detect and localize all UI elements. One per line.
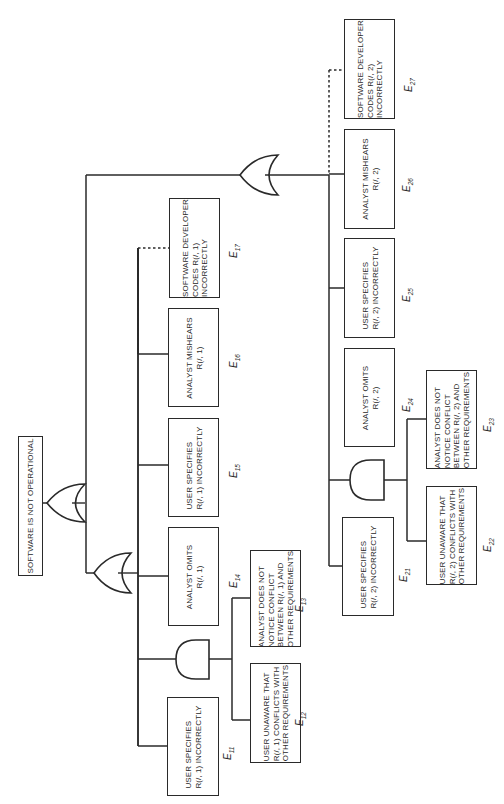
event-text-e13: ANALYST DOES NOT NOTICE CONFLICT BETWEEN… xyxy=(257,550,295,646)
event-text-e25: USER SPECIFIES R(/, 2) INCORRECTLY xyxy=(360,246,379,329)
event-text-e17: SOFTWARE DEVELOPER CODES R(/, 1) INCORRE… xyxy=(180,199,209,297)
top-event-box: SOFTWARE IS NOT OPERATIONAL xyxy=(18,436,43,576)
event-label-e17: E17 xyxy=(228,244,241,258)
event-text-e15: USER SPECIFIES R(/, 1) INCORRECTLY xyxy=(184,426,203,509)
event-box-e11: USER SPECIFIES R(/, 1) INCORRECTLY xyxy=(167,697,219,796)
event-box-e25: USER SPECIFIES R(/, 2) INCORRECTLY xyxy=(344,238,395,338)
event-box-e16: ANALYST MISHEARS R(/, 1) xyxy=(168,308,219,407)
event-box-e17: SOFTWARE DEVELOPER CODES R(/, 1) INCORRE… xyxy=(169,198,220,298)
event-text-e23: ANALYST DOES NOT NOTICE CONFLICT BETWEEN… xyxy=(433,371,471,467)
and-gate-branch-2 xyxy=(350,460,384,500)
event-label-e25: E25 xyxy=(401,288,414,302)
event-box-e27: SOFTWARE DEVELOPER CODES R(/, 2) INCORRE… xyxy=(344,19,395,119)
event-label-e13: E13 xyxy=(294,598,307,612)
event-text-e22: USER UNAWARE THAT R(/, 2) CONFLICTS WITH… xyxy=(437,487,466,583)
event-box-e15: USER SPECIFIES R(/, 1) INCORRECTLY xyxy=(168,418,219,517)
event-box-e22: USER UNAWARE THAT R(/, 2) CONFLICTS WITH… xyxy=(426,486,477,585)
event-label-e16: E16 xyxy=(228,354,241,368)
event-box-e24: ANALYST OMITS R(/, 2) xyxy=(344,348,395,447)
event-text-e11: USER SPECIFIES R(/, 1) INCORRECTLY xyxy=(184,705,203,788)
event-box-e26: ANALYST MISHEARS R(/, 2) xyxy=(344,129,395,229)
event-label-e12: E12 xyxy=(294,712,307,726)
event-text-e27: SOFTWARE DEVELOPER CODES R(/, 2) INCORRE… xyxy=(355,20,384,118)
event-label-e21: E21 xyxy=(398,568,411,582)
event-box-e23: ANALYST DOES NOT NOTICE CONFLICT BETWEEN… xyxy=(426,370,477,469)
event-text-e16: ANALYST MISHEARS R(/, 1) xyxy=(184,317,203,398)
event-text-e14: ANALYST OMITS R(/, 1) xyxy=(184,544,203,609)
event-text-e12: USER UNAWARE THAT R(/, 1) CONFLICTS WITH… xyxy=(261,665,290,761)
event-text-e21: USER SPECIFIES R(/, 2) INCORRECTLY xyxy=(359,525,378,608)
and-gate-branch-1 xyxy=(176,640,209,679)
top-event-text: SOFTWARE IS NOT OPERATIONAL xyxy=(26,438,36,573)
event-label-e22: E22 xyxy=(482,538,495,552)
event-label-e23: E23 xyxy=(482,418,495,432)
event-label-e26: E26 xyxy=(401,178,414,192)
event-text-e26: ANALYST MISHEARS R(/, 2) xyxy=(360,138,379,219)
event-box-e21: USER SPECIFIES R(/, 2) INCORRECTLY xyxy=(342,517,394,616)
event-label-e15: E15 xyxy=(228,464,241,478)
event-text-e24: ANALYST OMITS R(/, 2) xyxy=(360,365,379,430)
event-box-e14: ANALYST OMITS R(/, 1) xyxy=(168,527,219,626)
event-label-e24: E24 xyxy=(401,398,414,412)
event-label-e11: E11 xyxy=(222,747,235,760)
event-label-e27: E27 xyxy=(403,78,416,92)
event-label-e14: E14 xyxy=(228,574,241,588)
